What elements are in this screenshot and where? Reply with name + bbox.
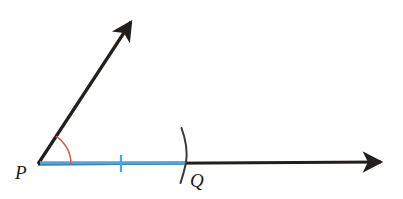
vertex-label-p: P (14, 162, 27, 183)
geometry-figure: P Q (0, 0, 403, 199)
geometry-canvas: P Q (0, 0, 403, 199)
point-label-q: Q (190, 170, 204, 191)
angle-arc-icon (57, 137, 72, 164)
construction-arc-icon (181, 128, 187, 183)
upper-ray (38, 22, 131, 164)
